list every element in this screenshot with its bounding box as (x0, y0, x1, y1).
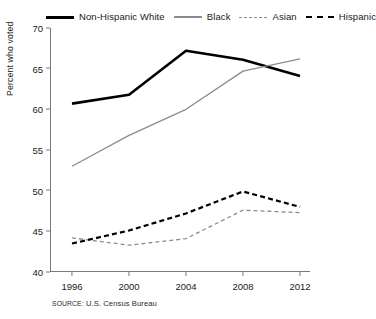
x-axis-tick-1996: 1996 (61, 272, 82, 291)
legend-label: Asian (272, 12, 296, 22)
source-note: SOURCE: U.S. Census Bureau (52, 299, 157, 308)
series-line-asian (72, 210, 300, 245)
legend-label: Black (207, 12, 231, 22)
thick-solid-black-line-icon (46, 13, 74, 22)
legend-label: Non-Hispanic White (79, 12, 165, 22)
x-axis-tick-2004: 2004 (175, 272, 196, 291)
x-axis-tick-2012: 2012 (289, 272, 310, 291)
series-line-hispanic (72, 191, 300, 243)
black-dashed-line-icon (306, 13, 334, 22)
x-axis-tick-2000: 2000 (118, 272, 139, 291)
legend-item-non-hispanic-white[interactable]: Non-Hispanic White (46, 12, 165, 22)
x-axis-tick-2008: 2008 (232, 272, 253, 291)
y-axis-tick-60: 60 (3, 105, 50, 114)
y-axis-tick-40: 40 (3, 268, 50, 277)
legend-item-asian[interactable]: Asian (239, 12, 296, 22)
chart-legend: Non-Hispanic White Black Asian Hispanic (46, 9, 334, 25)
y-axis-tick-70: 70 (3, 24, 50, 33)
gray-dashed-line-icon (239, 13, 267, 22)
thin-solid-gray-line-icon (174, 13, 202, 22)
series-line-non-hispanic-white (72, 51, 300, 104)
y-axis-tick-55: 55 (3, 146, 50, 155)
y-axis-tick-65: 65 (3, 64, 50, 73)
source-text: U.S. Census Bureau (84, 299, 157, 308)
legend-item-hispanic[interactable]: Hispanic (306, 12, 376, 22)
source-keyword: SOURCE: (52, 300, 84, 307)
series-lines (50, 28, 310, 272)
series-line-black (72, 59, 300, 166)
y-axis-tick-50: 50 (3, 186, 50, 195)
legend-label: Hispanic (339, 12, 376, 22)
y-axis-title: Percent who voted (5, 21, 15, 96)
plot-area: 70656055504540 19962000200420082012 (50, 28, 310, 272)
legend-item-black[interactable]: Black (174, 12, 231, 22)
y-axis-tick-45: 45 (3, 227, 50, 236)
